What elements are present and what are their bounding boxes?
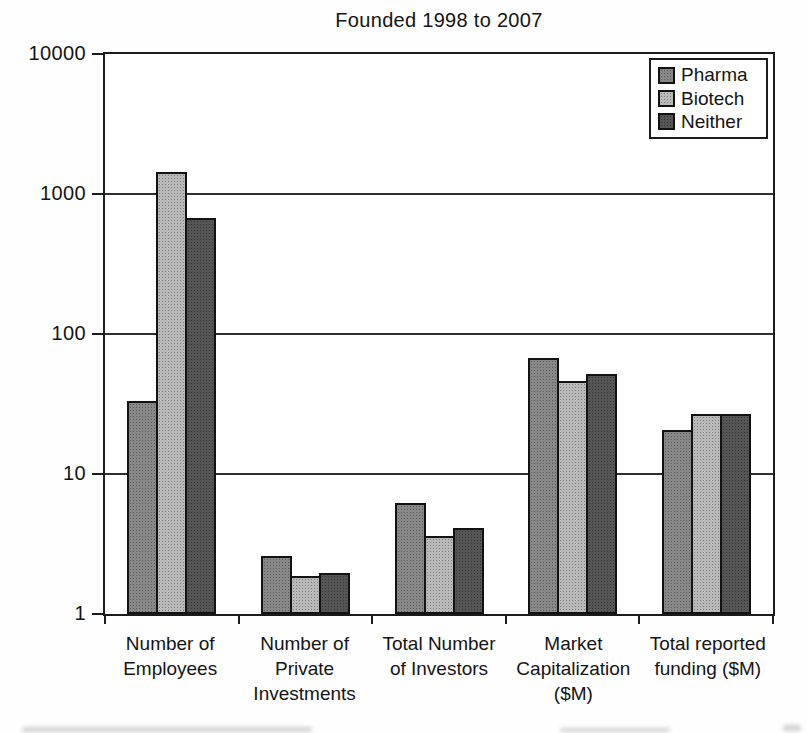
- legend-label-pharma: Pharma: [681, 65, 748, 85]
- bar-pharma-1: [127, 401, 158, 614]
- bar-biotech-3: [424, 536, 455, 614]
- legend-item-biotech: Biotech: [658, 89, 764, 109]
- bar-neither-5: [720, 414, 751, 614]
- legend-label-biotech: Biotech: [681, 89, 744, 109]
- chart-figure: Founded 1998 to 2007 PharmaBiotechNeithe…: [0, 0, 808, 733]
- bar-neither-4: [586, 374, 617, 614]
- legend-swatch-biotech: [658, 90, 675, 107]
- y-tick: [92, 193, 103, 195]
- bar-pharma-4: [528, 358, 559, 614]
- bar-pharma-2: [261, 556, 292, 614]
- category-label-5: Total reported funding ($M): [641, 631, 775, 681]
- x-tick: [772, 616, 774, 624]
- bar-neither-2: [319, 573, 350, 614]
- y-tick: [92, 53, 103, 55]
- x-tick: [371, 616, 373, 624]
- bar-pharma-3: [395, 503, 426, 614]
- y-axis-label-10: 10: [0, 461, 86, 485]
- category-label-4: Market Capitalization ($M): [506, 631, 640, 706]
- y-tick: [92, 613, 103, 615]
- y-tick: [92, 333, 103, 335]
- bar-biotech-5: [691, 414, 722, 614]
- legend: PharmaBiotechNeither: [649, 58, 768, 139]
- legend-swatch-pharma: [658, 67, 675, 84]
- x-tick: [638, 616, 640, 624]
- legend-swatch-neither: [658, 113, 675, 130]
- x-tick: [505, 616, 507, 624]
- legend-label-neither: Neither: [681, 112, 742, 132]
- x-tick: [238, 616, 240, 624]
- y-axis-label-100: 100: [0, 321, 86, 345]
- bar-neither-1: [185, 218, 216, 614]
- bar-biotech-1: [156, 172, 187, 614]
- y-axis-label-10000: 10000: [0, 41, 86, 65]
- scan-smudge: [783, 725, 801, 731]
- category-label-1: Number of Employees: [103, 631, 237, 681]
- scan-smudge: [22, 727, 312, 732]
- scan-smudge: [560, 728, 670, 732]
- category-label-3: Total Number of Investors: [372, 631, 506, 681]
- legend-item-pharma: Pharma: [658, 65, 764, 85]
- y-axis-label-1: 1: [0, 601, 86, 625]
- bar-neither-3: [453, 528, 484, 614]
- bar-biotech-2: [290, 576, 321, 614]
- bar-pharma-5: [662, 430, 693, 614]
- y-tick: [92, 473, 103, 475]
- gridline-1000: [105, 193, 773, 195]
- chart-title: Founded 1998 to 2007: [103, 9, 775, 32]
- bar-biotech-4: [557, 381, 588, 614]
- category-label-2: Number of Private Investments: [237, 631, 371, 706]
- legend-item-neither: Neither: [658, 112, 764, 132]
- y-axis-label-1000: 1000: [0, 181, 86, 205]
- x-tick: [104, 616, 106, 624]
